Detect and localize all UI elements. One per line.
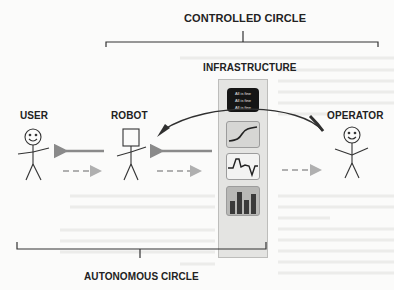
controlled-circle-bracket — [106, 31, 378, 47]
diagram-canvas — [0, 0, 394, 290]
operator-to-robot-curved-arrow — [163, 109, 323, 131]
user-figure — [18, 129, 49, 180]
curved-arrowhead-icon — [157, 124, 170, 137]
autonomous-circle-bracket — [17, 242, 266, 258]
operator-figure — [335, 127, 368, 178]
robot-figure — [117, 129, 146, 180]
